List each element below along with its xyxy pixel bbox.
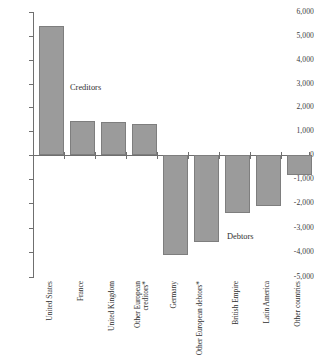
y-axis-label-4000: 4,000 xyxy=(286,56,314,64)
x-axis-label-british-empire: British Empire xyxy=(232,281,240,357)
x-tick-mark xyxy=(250,152,251,159)
x-tick-mark xyxy=(64,152,65,159)
y-tick-mark xyxy=(29,60,34,61)
bar-other-countries xyxy=(287,155,312,175)
x-axis-label-other-european-debtors: Other European debtors* xyxy=(196,281,204,357)
bar-latin-america xyxy=(256,155,281,206)
x-axis-label-latin-america: Latin America xyxy=(263,281,271,357)
y-axis-label-3000: 3,000 xyxy=(286,80,314,88)
x-tick-mark xyxy=(188,152,189,159)
bar-united-states xyxy=(39,26,64,155)
bar-chart: 6,000 5,000 4,000 3,000 2,000 1,000 0 -1… xyxy=(0,0,314,358)
y-axis-label-n2000: -2,000 xyxy=(286,199,314,207)
y-axis-label-n4000: -4,000 xyxy=(286,248,314,256)
x-tick-mark xyxy=(281,152,282,159)
annotation-debtors: Debtors xyxy=(227,232,254,242)
y-axis-label-6000: 6,000 xyxy=(286,8,314,16)
y-tick-mark xyxy=(29,131,34,132)
annotation-creditors: Creditors xyxy=(70,83,101,93)
bar-other-european-debtors xyxy=(194,155,219,242)
bar-germany xyxy=(163,155,188,255)
y-tick-mark xyxy=(29,228,34,229)
x-axis-label-united-kingdom: United Kingdom xyxy=(108,281,116,357)
y-tick-mark xyxy=(29,179,34,180)
y-tick-mark xyxy=(29,155,34,156)
y-tick-mark xyxy=(29,252,34,253)
y-axis-label-n1000: -1,000 xyxy=(286,175,314,183)
x-tick-mark xyxy=(126,152,127,159)
y-tick-mark xyxy=(29,203,34,204)
y-axis-label-n5000: -5,000 xyxy=(286,273,314,281)
y-axis-label-n3000: -3,000 xyxy=(286,224,314,232)
bar-united-kingdom xyxy=(101,122,126,155)
x-tick-mark xyxy=(219,152,220,159)
y-tick-mark xyxy=(29,84,34,85)
x-axis-label-germany: Germany xyxy=(170,281,178,357)
y-axis-line xyxy=(33,12,34,278)
y-tick-mark xyxy=(29,36,34,37)
bar-british-empire xyxy=(225,155,250,213)
x-axis-label-france: France xyxy=(77,281,85,357)
x-axis-label-united-states: United States xyxy=(46,281,54,357)
y-axis-label-2000: 2,000 xyxy=(286,103,314,111)
x-axis-label-other-european-creditors: Other European creditors* xyxy=(134,281,150,357)
x-tick-mark xyxy=(157,152,158,159)
x-tick-mark xyxy=(95,152,96,159)
bar-other-european-creditors xyxy=(132,124,157,155)
y-tick-mark xyxy=(29,12,34,13)
y-tick-mark xyxy=(29,107,34,108)
y-axis-label-5000: 5,000 xyxy=(286,32,314,40)
y-axis-label-1000: 1,000 xyxy=(286,127,314,135)
bar-france xyxy=(70,121,95,155)
x-axis-label-other-countries: Other countries xyxy=(294,281,302,357)
y-tick-mark xyxy=(29,277,34,278)
